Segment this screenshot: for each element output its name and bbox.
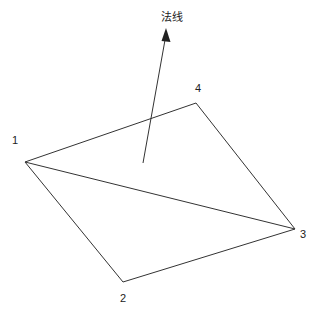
normal-arrow [143,40,165,163]
vertex-label-4: 4 [195,82,201,94]
vertex-label-3: 3 [300,228,306,240]
vertex-label-1: 1 [12,134,18,146]
arrowhead-icon [162,28,171,42]
quad-normal-diagram: 法线 1 2 3 4 [0,0,318,313]
quadrilateral-outline [25,103,295,282]
diagonal-1-3 [25,162,295,229]
vertex-label-2: 2 [120,292,126,304]
diagram-svg: 法线 1 2 3 4 [0,0,318,313]
normal-label: 法线 [161,10,183,24]
